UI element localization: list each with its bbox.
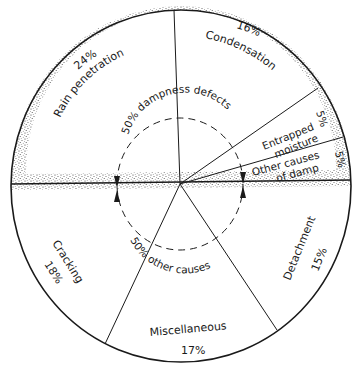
miscellaneous-label: Miscellaneous bbox=[149, 319, 227, 339]
detachment-pct: 15% bbox=[309, 246, 330, 274]
detachment-label: Detachment bbox=[281, 213, 319, 282]
other-causes-group-label: 50% other causes bbox=[128, 235, 212, 275]
arrow-down-right-icon bbox=[240, 186, 246, 198]
arrow-down-left-icon bbox=[114, 190, 120, 202]
pie-chart: Rain penetration 24% Condensation 16% En… bbox=[0, 0, 359, 369]
miscellaneous-pct: 17% bbox=[181, 344, 205, 357]
